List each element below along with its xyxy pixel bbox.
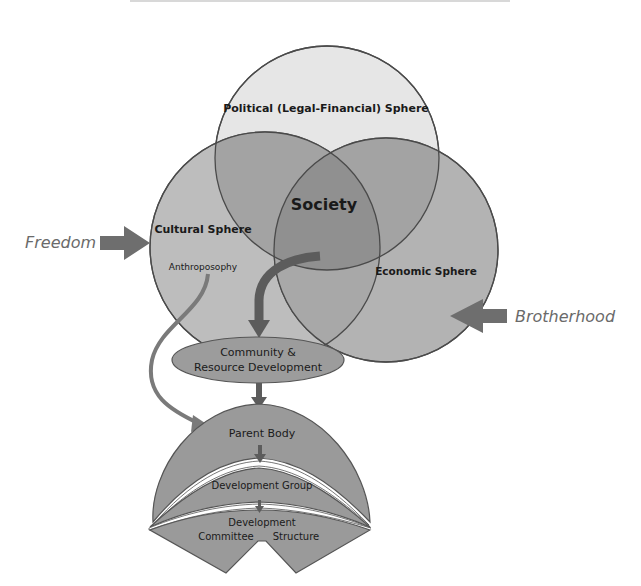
freedom-label: Freedom	[25, 233, 96, 252]
anthroposophy-label: Anthroposophy	[169, 262, 238, 272]
three-fold-society-diagram: Political (Legal-Financial) Sphere Socie…	[0, 0, 641, 586]
committee-label-right: Structure	[273, 531, 320, 542]
brotherhood-label: Brotherhood	[515, 307, 616, 326]
development-group-label: Development Group	[212, 480, 313, 491]
community-resource-node: Community & Resource Development	[172, 337, 344, 383]
committee-label-line1: Development	[228, 517, 295, 528]
development-committee-node: Development Committee Structure	[150, 510, 370, 573]
cultural-sphere-label: Cultural Sphere	[154, 223, 251, 236]
society-label: Society	[291, 195, 358, 214]
committee-label-left: Committee	[198, 531, 254, 542]
freedom-arrow-icon	[100, 226, 150, 260]
parent-body-label: Parent Body	[229, 427, 296, 440]
economic-sphere-label: Economic Sphere	[375, 265, 477, 277]
community-label-line2: Resource Development	[194, 361, 323, 374]
freedom-input: Freedom	[25, 226, 150, 260]
community-label-line1: Community &	[220, 346, 296, 359]
cropped-title-remnant	[130, 0, 510, 2]
political-sphere-label: Political (Legal-Financial) Sphere	[223, 102, 429, 115]
brotherhood-input: Brotherhood	[450, 299, 616, 333]
